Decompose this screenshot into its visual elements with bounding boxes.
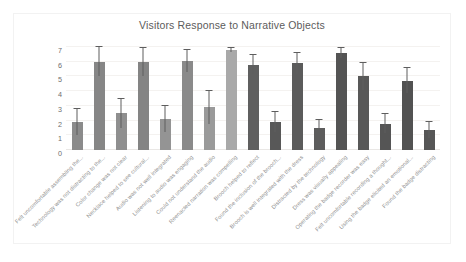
bar-group[interactable]	[286, 47, 308, 150]
error-bar-line	[363, 63, 364, 89]
chart-frame: Visitors Response to Narrative Objects 0…	[13, 13, 451, 244]
bar[interactable]	[292, 63, 303, 150]
error-bar-cap-top	[294, 52, 301, 53]
chart-title: Visitors Response to Narrative Objects	[14, 19, 450, 31]
error-bar-line	[253, 55, 254, 74]
error-bar-cap-top	[382, 113, 389, 114]
bar-group[interactable]	[352, 47, 374, 150]
bar[interactable]	[182, 61, 193, 150]
error-bar-line	[209, 91, 210, 123]
error-bar-line	[77, 109, 78, 135]
error-bar-line	[187, 50, 188, 72]
bar-group[interactable]	[308, 47, 330, 150]
bar-series	[66, 47, 440, 150]
bar-group[interactable]	[418, 47, 440, 150]
error-bar-cap-top	[140, 47, 147, 48]
bar-group[interactable]	[242, 47, 264, 150]
bar-group[interactable]	[396, 47, 418, 150]
error-bar-cap-top	[96, 46, 103, 47]
error-bar-cap-top	[206, 90, 213, 91]
error-bar-line	[143, 48, 144, 76]
y-axis-ticks: 01234567	[40, 47, 62, 150]
error-bar-cap-top	[426, 121, 433, 122]
bar[interactable]	[226, 50, 237, 150]
error-bar-line	[297, 53, 298, 74]
bar-group[interactable]	[132, 47, 154, 150]
error-bar-cap-top	[228, 47, 235, 48]
error-bar-cap-top	[338, 47, 345, 48]
error-bar-line	[319, 120, 320, 136]
error-bar-line	[121, 99, 122, 128]
error-bar-line	[165, 106, 166, 132]
error-bar-line	[385, 114, 386, 133]
bar-group[interactable]	[176, 47, 198, 150]
error-bar-line	[407, 68, 408, 93]
bar-group[interactable]	[330, 47, 352, 150]
error-bar-line	[275, 112, 276, 131]
bar-group[interactable]	[264, 47, 286, 150]
x-axis-labels: Felt uncomfortable assembling the...Tech…	[66, 154, 440, 254]
bar-group[interactable]	[66, 47, 88, 150]
error-bar-cap-top	[404, 67, 411, 68]
error-bar-cap-top	[250, 54, 257, 55]
plot-area	[66, 47, 440, 150]
error-bar-cap-top	[118, 98, 125, 99]
error-bar-line	[341, 48, 342, 58]
error-bar-cap-top	[74, 108, 81, 109]
error-bar-cap-top	[272, 111, 279, 112]
bar-group[interactable]	[110, 47, 132, 150]
error-bar-line	[429, 122, 430, 138]
bar-group[interactable]	[154, 47, 176, 150]
error-bar-line	[99, 47, 100, 76]
error-bar-line	[231, 48, 232, 52]
error-bar-cap-top	[184, 49, 191, 50]
error-bar-cap-top	[360, 62, 367, 63]
bar[interactable]	[336, 53, 347, 150]
bar-group[interactable]	[88, 47, 110, 150]
bar-group[interactable]	[198, 47, 220, 150]
error-bar-cap-top	[316, 119, 323, 120]
bar[interactable]	[248, 65, 259, 150]
error-bar-cap-top	[162, 105, 169, 106]
bar-group[interactable]	[374, 47, 396, 150]
bar-group[interactable]	[220, 47, 242, 150]
